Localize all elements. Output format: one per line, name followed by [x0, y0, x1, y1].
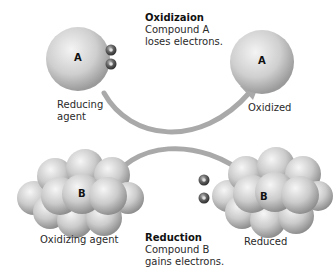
reduction-caption: Reduction Compound B gains electrons.: [145, 232, 224, 268]
oxidized-label: Oxidized: [248, 102, 291, 114]
molecule-a-oxidized-letter: A: [258, 55, 266, 66]
electron-icon: [199, 193, 210, 204]
reducing-agent-label-line1: Reducing: [57, 99, 103, 111]
reducing-agent-label: Reducing agent: [57, 99, 103, 123]
oxidation-caption-line1: Compound A: [145, 24, 223, 36]
molecule-b-letter: B: [78, 188, 86, 199]
oxidation-caption: Oxidizaion Compound A loses electrons.: [145, 12, 223, 48]
electron-icon: [106, 45, 117, 56]
reduction-caption-title: Reduction: [145, 232, 224, 244]
reduced-label: Reduced: [244, 236, 287, 248]
molecule-a-letter: A: [74, 52, 82, 63]
oxidizing-agent-label: Oxidizing agent: [40, 234, 118, 246]
reduction-caption-line2: gains electrons.: [145, 256, 224, 268]
electron-icon: [199, 175, 210, 186]
oxidation-arrow: [104, 82, 260, 132]
oxidation-caption-line2: loses electrons.: [145, 36, 223, 48]
electron-icon: [106, 59, 117, 70]
reducing-agent-label-line2: agent: [57, 111, 103, 123]
oxidation-caption-title: Oxidizaion: [145, 12, 223, 24]
reduction-caption-line1: Compound B: [145, 244, 224, 256]
molecule-b-reduced-letter: B: [260, 191, 268, 202]
